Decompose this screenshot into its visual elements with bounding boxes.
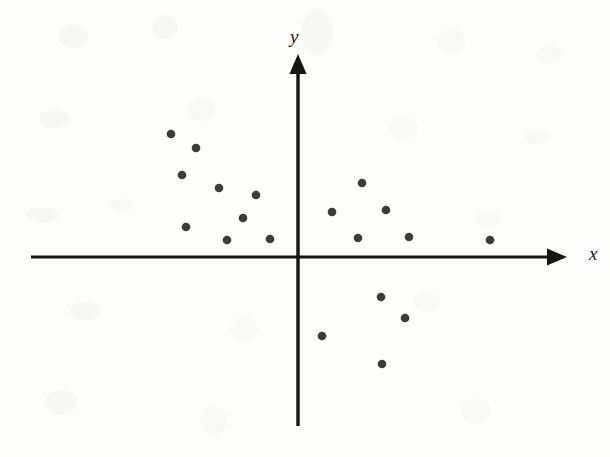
- scatter-point: [178, 171, 187, 180]
- scatter-point: [167, 130, 176, 139]
- scatter-point: [382, 206, 391, 215]
- scatter-point: [252, 191, 261, 200]
- scanned-page: y x: [0, 0, 610, 457]
- scatter-point: [354, 234, 363, 243]
- y-axis-label: y: [290, 27, 298, 46]
- scatter-point: [405, 233, 414, 242]
- x-axis-label: x: [589, 244, 597, 263]
- scatter-plot-figure: [0, 0, 610, 457]
- scatter-points-layer: [167, 130, 495, 369]
- y-axis: [290, 54, 307, 426]
- scatter-point: [223, 236, 232, 245]
- scatter-point: [239, 214, 248, 223]
- scatter-point: [318, 332, 327, 341]
- scatter-point: [215, 184, 224, 193]
- scatter-point: [182, 223, 191, 232]
- scatter-point: [328, 208, 337, 217]
- scatter-point: [358, 179, 367, 188]
- scatter-point: [486, 236, 495, 245]
- scatter-point: [266, 235, 275, 244]
- scatter-point: [192, 144, 201, 153]
- scatter-point: [378, 360, 387, 369]
- scatter-point: [377, 293, 386, 302]
- x-axis-arrowhead: [547, 249, 567, 266]
- y-axis-arrowhead: [290, 54, 307, 74]
- scatter-point: [401, 314, 410, 323]
